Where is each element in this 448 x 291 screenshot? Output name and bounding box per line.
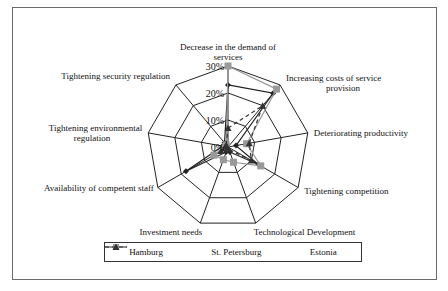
axis-label: Tightening security regulation bbox=[61, 71, 170, 81]
axis-label: Increasing costs of serviceprovision bbox=[286, 73, 381, 93]
axis-label: Tightening environmentalregulation bbox=[49, 123, 143, 143]
square-marker-icon bbox=[257, 162, 264, 169]
axis-label: Technological Development bbox=[254, 227, 356, 237]
legend-item-hamburg: Hamburg bbox=[129, 247, 163, 257]
axis-label: Investment needs bbox=[140, 227, 203, 237]
square-marker-icon bbox=[273, 86, 280, 93]
legend: Hamburg St. Petersburg Estonia bbox=[104, 242, 362, 262]
tick-label: 10% bbox=[206, 115, 224, 126]
axis-label: Tightening competition bbox=[304, 186, 389, 196]
square-marker-icon bbox=[220, 156, 227, 163]
axis-label: Availability of competent staff bbox=[44, 183, 154, 193]
square-marker-icon bbox=[230, 159, 237, 166]
axis-label: Decrease in the demand ofservices bbox=[180, 42, 276, 62]
legend-item-estonia: Estonia bbox=[310, 247, 337, 257]
tick-label: 30% bbox=[206, 61, 224, 72]
legend-item-st-petersburg: St. Petersburg bbox=[211, 247, 261, 257]
tick-label: 0% bbox=[211, 142, 224, 153]
legend-label: St. Petersburg bbox=[211, 247, 261, 257]
legend-label: Hamburg bbox=[129, 247, 163, 257]
tick-label: 20% bbox=[206, 88, 224, 99]
axis-label: Deteriorating productivity bbox=[314, 128, 409, 138]
legend-label: Estonia bbox=[310, 247, 337, 257]
square-marker-icon bbox=[225, 63, 232, 70]
triangle-marker-icon bbox=[105, 243, 127, 251]
